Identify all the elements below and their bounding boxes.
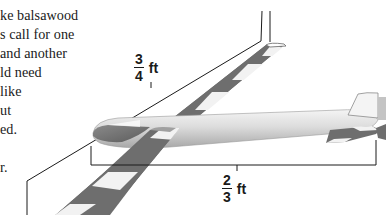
denominator: 4: [135, 68, 143, 83]
unit: ft: [237, 181, 246, 197]
unit: ft: [149, 60, 158, 76]
fraction: 2 3: [222, 173, 232, 204]
glider-diagram: [0, 0, 386, 215]
fraction: 3 4: [134, 52, 144, 83]
wing-span-label: 3 4 ft: [134, 52, 158, 83]
fuselage-length-label: 2 3 ft: [222, 173, 246, 204]
numerator: 2: [222, 173, 232, 189]
denominator: 3: [223, 189, 231, 204]
numerator: 3: [134, 52, 144, 68]
